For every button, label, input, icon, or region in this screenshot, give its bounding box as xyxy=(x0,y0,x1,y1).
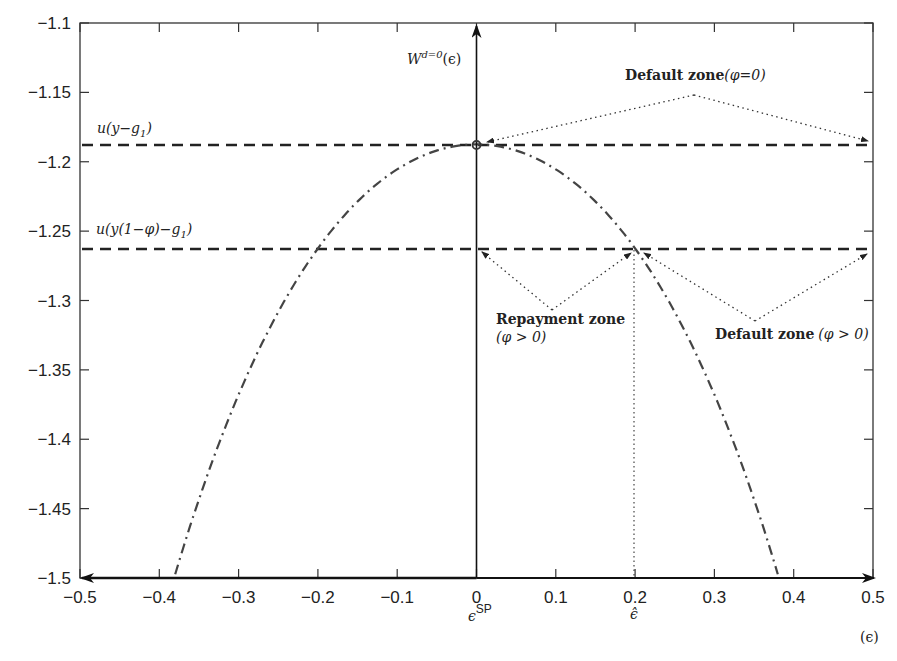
x-tick-label: 0.5 xyxy=(861,588,885,607)
x-tick-labels: −0.5−0.4−0.3−0.2−0.100.10.20.30.40.5 xyxy=(63,588,885,607)
epsilon-hat-label: ϵ̂ xyxy=(630,606,638,622)
y-tick-label: −1.15 xyxy=(28,83,71,102)
x-tick-label: −0.3 xyxy=(222,588,256,607)
default-zone-top-arrow-right xyxy=(694,95,868,141)
y-tick-label: −1.3 xyxy=(37,292,71,311)
chart: −0.5−0.4−0.3−0.2−0.100.10.20.30.40.5 −1.… xyxy=(0,0,897,661)
w-axis-label: Wd=0(ϵ) xyxy=(407,49,461,67)
x-tick-label: 0.2 xyxy=(623,588,647,607)
x-tick-label: −0.5 xyxy=(63,588,97,607)
repayment-zone-arrow-left xyxy=(482,252,552,310)
x-tick-label: −0.1 xyxy=(380,588,414,607)
default-zone-top-arrow-left xyxy=(487,95,694,142)
x-tick-label: −0.2 xyxy=(301,588,335,607)
y-tick-label: −1.4 xyxy=(37,430,71,449)
y-tick-label: −1.1 xyxy=(37,14,71,33)
default-zone-top-label: Default zone(φ=0) xyxy=(625,67,766,83)
default-zone-right-arrow-right xyxy=(755,254,867,321)
lower-line-label: u(y(1−φ)−g1) xyxy=(96,221,192,240)
chart-svg: −0.5−0.4−0.3−0.2−0.100.10.20.30.40.5 −1.… xyxy=(0,0,897,661)
y-tick-label: −1.35 xyxy=(28,361,71,380)
repayment-zone-arrow-right xyxy=(552,253,631,310)
x-tick-label: 0.4 xyxy=(782,588,806,607)
x-axis-label: (ϵ) xyxy=(860,629,879,645)
y-tick-label: −1.2 xyxy=(37,153,71,172)
default-zone-right-label: Default zone(φ > 0) xyxy=(715,326,869,342)
x-tick-label: −0.4 xyxy=(143,588,177,607)
repayment-zone-condition: (φ > 0) xyxy=(496,329,546,345)
upper-line-label: u(y−g1) xyxy=(97,120,152,139)
repayment-zone-label: Repayment zone xyxy=(496,311,625,327)
y-tick-label: −1.45 xyxy=(28,500,71,519)
y-tick-label: −1.5 xyxy=(37,569,71,588)
x-tick-label: 0.1 xyxy=(544,588,568,607)
y-tick-labels: −1.1−1.15−1.2−1.25−1.3−1.35−1.4−1.45−1.5 xyxy=(28,14,71,588)
x-tick-label: 0.3 xyxy=(703,588,727,607)
y-tick-label: −1.25 xyxy=(28,222,71,241)
